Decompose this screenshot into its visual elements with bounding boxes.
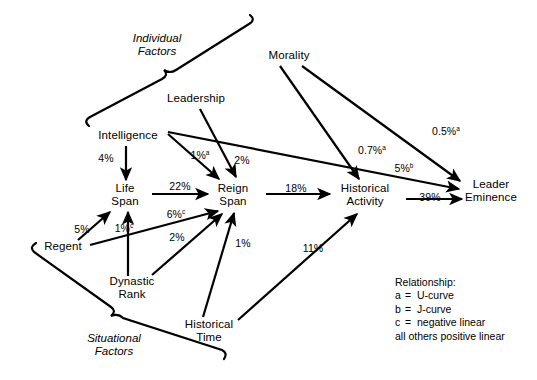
legend-item-a: a=U-curve bbox=[395, 289, 505, 302]
edge-note: a bbox=[382, 144, 386, 151]
edge-label-intelligence-to-life-span: 4% bbox=[98, 152, 113, 164]
node-life-span-label-line1: Life bbox=[111, 182, 138, 195]
legend-key-c: c bbox=[395, 316, 405, 329]
node-dynastic-rank-label-line2: Rank bbox=[110, 287, 155, 300]
node-intelligence[interactable]: Intelligence bbox=[98, 129, 157, 142]
edge-value: 0.7% bbox=[358, 144, 382, 156]
edge-historical-time-to-historical-activity bbox=[238, 214, 357, 320]
node-historical-time[interactable]: Historical Time bbox=[185, 318, 233, 343]
node-intelligence-label-line1: Intelligence bbox=[98, 129, 157, 141]
node-reign-span[interactable]: Reign Span bbox=[218, 182, 249, 207]
edge-label-morality-to-historical-activity: 0.7%a bbox=[358, 144, 386, 156]
legend-eq-c: = bbox=[405, 316, 417, 329]
node-morality-label-line1: Morality bbox=[268, 49, 309, 61]
node-regent-label-line1: Regent bbox=[44, 240, 82, 252]
node-historical-activity-label-line1: Historical bbox=[341, 182, 389, 195]
situational-factors-line1: Situational bbox=[87, 332, 141, 345]
legend-text-c: negative linear bbox=[417, 316, 485, 328]
situational-factors-line2: Factors bbox=[87, 344, 141, 357]
legend-key-a: a bbox=[395, 289, 405, 302]
individual-factors-line1: Individual bbox=[133, 32, 182, 45]
edge-value: 5% bbox=[394, 162, 409, 174]
node-dynastic-rank[interactable]: Dynastic Rank bbox=[110, 275, 155, 300]
legend-title: Relationship: bbox=[395, 276, 505, 289]
edge-note: c bbox=[130, 222, 133, 229]
edge-value: 4% bbox=[98, 152, 113, 164]
edge-value: 1% bbox=[115, 222, 130, 234]
node-reign-span-label-line2: Span bbox=[218, 194, 249, 207]
edge-regent-to-reign-span bbox=[90, 211, 218, 245]
edge-value: 2% bbox=[234, 154, 249, 166]
edge-value: 18% bbox=[285, 182, 306, 194]
diagram-canvas: Morality Leadership Intelligence Life Sp… bbox=[0, 0, 537, 380]
edge-value: 2% bbox=[169, 231, 184, 243]
legend-item-c: c=negative linear bbox=[395, 316, 505, 329]
edge-intelligence-to-leader-eminence bbox=[168, 132, 459, 189]
edge-label-life-span-to-reign-span: 22% bbox=[169, 180, 190, 192]
legend-text-a: U-curve bbox=[417, 289, 454, 301]
legend-text-b: J-curve bbox=[417, 303, 451, 315]
edge-note: c bbox=[182, 208, 185, 215]
edge-label-dynastic-rank-to-life-span: 1%c bbox=[115, 222, 134, 234]
group-label-individual-factors: Individual Factors bbox=[133, 32, 182, 57]
edge-label-historical-time-to-reign-span: 1% bbox=[235, 237, 250, 249]
node-life-span[interactable]: Life Span bbox=[111, 182, 138, 207]
edge-value: 22% bbox=[169, 180, 190, 192]
edge-note: a bbox=[206, 149, 210, 156]
edge-label-leadership-to-reign-span: 2% bbox=[234, 154, 249, 166]
edge-label-intelligence-to-leader-eminence: 5%b bbox=[394, 162, 413, 174]
node-leader-eminence-label-line1: Leader bbox=[465, 178, 517, 191]
edge-label-regent-to-reign-span: 6%c bbox=[167, 208, 186, 220]
individual-factors-line2: Factors bbox=[133, 44, 182, 57]
node-leadership-label-line1: Leadership bbox=[167, 92, 225, 104]
edge-note: b bbox=[410, 162, 414, 169]
edge-label-intelligence-to-reign-span: 1%a bbox=[190, 149, 209, 161]
legend: Relationship: a=U-curve b=J-curve c=nega… bbox=[395, 276, 505, 343]
edge-value: 39% bbox=[419, 191, 440, 203]
edge-value: 6% bbox=[167, 208, 182, 220]
legend-eq-b: = bbox=[405, 303, 417, 316]
legend-item-b: b=J-curve bbox=[395, 303, 505, 316]
edge-value: 5% bbox=[74, 223, 89, 235]
node-leadership[interactable]: Leadership bbox=[167, 92, 225, 105]
node-dynastic-rank-label-line1: Dynastic bbox=[110, 275, 155, 288]
edge-label-reign-span-to-historical-activity: 18% bbox=[285, 182, 306, 194]
edge-label-dynastic-rank-to-reign-span: 2% bbox=[169, 231, 184, 243]
edge-label-regent-to-life-span: 5% bbox=[74, 223, 89, 235]
edge-label-morality-to-leader-eminence: 0.5%a bbox=[432, 125, 460, 137]
edge-dynastic-rank-to-reign-span bbox=[152, 214, 222, 275]
node-regent[interactable]: Regent bbox=[44, 240, 82, 253]
edge-label-historical-time-to-historical-activity: 11% bbox=[303, 242, 324, 254]
edge-value: 1% bbox=[190, 149, 205, 161]
edge-note: a bbox=[456, 125, 460, 132]
legend-eq-a: = bbox=[405, 289, 417, 302]
node-morality[interactable]: Morality bbox=[268, 49, 309, 62]
legend-key-b: b bbox=[395, 303, 405, 316]
edge-value: 11% bbox=[303, 242, 324, 254]
group-label-situational-factors: Situational Factors bbox=[87, 332, 141, 357]
node-historical-activity-label-line2: Activity bbox=[341, 194, 389, 207]
node-life-span-label-line2: Span bbox=[111, 194, 138, 207]
node-leader-eminence-label-line2: Eminence bbox=[465, 190, 517, 203]
legend-footer: all others positive linear bbox=[395, 330, 505, 343]
node-leader-eminence[interactable]: Leader Eminence bbox=[465, 178, 517, 203]
node-historical-time-label-line1: Historical bbox=[185, 318, 233, 331]
edge-value: 1% bbox=[235, 237, 250, 249]
node-historical-time-label-line2: Time bbox=[185, 330, 233, 343]
node-historical-activity[interactable]: Historical Activity bbox=[341, 182, 389, 207]
node-reign-span-label-line1: Reign bbox=[218, 182, 249, 195]
edge-value: 0.5% bbox=[432, 125, 456, 137]
edge-label-historical-activity-to-leader-eminence: 39% bbox=[419, 191, 440, 203]
edge-historical-time-to-reign-span bbox=[203, 213, 234, 317]
